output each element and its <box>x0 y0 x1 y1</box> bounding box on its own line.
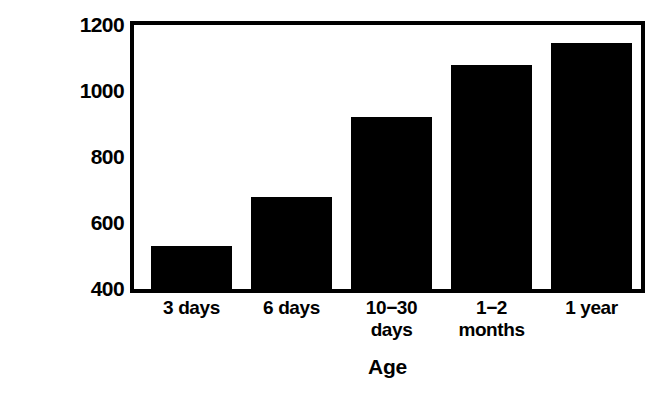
y-tick-label-600: 600 <box>44 212 124 233</box>
bar <box>251 197 332 289</box>
y-tick-label-1000: 1000 <box>44 80 124 101</box>
y-tick-label-800: 800 <box>44 146 124 167</box>
y-tick-label-1200: 1200 <box>44 14 124 35</box>
bar <box>151 246 232 289</box>
bar-chart: Urine, mOsm/kg 40060080010001200 3 days6… <box>0 0 661 401</box>
x-axis-title: Age <box>130 355 645 379</box>
bar <box>551 43 632 289</box>
x-tick-label-1: 3 days <box>137 297 247 319</box>
x-axis-tick-labels: 3 days6 days10−30 days1−2 months1 year <box>130 297 645 349</box>
x-tick-label-5: 1 year <box>537 297 647 319</box>
x-tick-label-4: 1−2 months <box>437 297 547 341</box>
plot-frame <box>130 21 645 293</box>
bar <box>351 117 432 289</box>
bar <box>451 65 532 289</box>
x-tick-label-2: 6 days <box>237 297 347 319</box>
y-tick-label-400: 400 <box>44 278 124 299</box>
plot-area <box>134 25 641 289</box>
x-tick-label-3: 10−30 days <box>337 297 447 341</box>
y-axis-tick-labels: 40060080010001200 <box>44 0 124 401</box>
